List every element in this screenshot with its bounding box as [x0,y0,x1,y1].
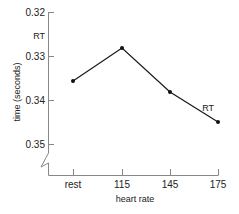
axis-break-icon [41,153,49,176]
data-point [216,120,220,124]
x-axis: rest 115 145 175 heart rate [49,169,227,204]
annotation-rt-top: RT [33,31,45,41]
y-tick-label: 0.32 [26,7,46,18]
y-tick-label: 0.34 [26,95,46,106]
data-point [71,79,75,83]
annotation-rt-series: RT [202,103,214,113]
y-tick-label: 0.33 [26,51,46,62]
data-point [120,46,124,50]
x-tick-label: 175 [210,179,227,190]
y-tick-label: 0.35 [26,139,46,150]
y-axis-title: time (seconds) [12,62,22,121]
line-chart: 0.32 0.33 0.34 0.35 time (seconds) rest … [0,0,239,214]
x-tick-label: 115 [114,179,130,190]
data-point [168,90,172,94]
series-rt [71,46,220,124]
x-tick-label: 145 [162,179,179,190]
x-tick-label: rest [65,179,82,190]
x-axis-title: heart rate [116,194,155,204]
